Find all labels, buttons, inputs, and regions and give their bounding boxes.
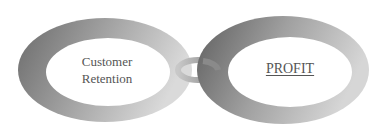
label-line-1: Customer	[62, 53, 152, 70]
customer-retention-label: Customer Retention	[62, 53, 152, 87]
label-line-2: Retention	[62, 70, 152, 87]
profit-label: PROFIT	[240, 60, 340, 77]
linked-rings-diagram: Customer Retention PROFIT	[0, 0, 374, 135]
